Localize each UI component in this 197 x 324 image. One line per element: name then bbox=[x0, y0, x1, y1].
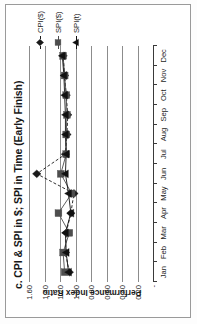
x-tick-mark bbox=[153, 202, 157, 203]
x-tick-mark bbox=[153, 222, 157, 223]
series-line bbox=[36, 56, 73, 272]
x-tick-label: Mar bbox=[159, 226, 168, 239]
triangle-marker-icon bbox=[71, 36, 81, 49]
scanned-page: c. CPI & SPI in $; SPI in Time (Early Fi… bbox=[0, 0, 197, 324]
x-tick-mark bbox=[153, 65, 157, 66]
y-tick-label: - bbox=[148, 285, 157, 309]
x-tick-mark bbox=[153, 261, 157, 262]
plot-series-layer bbox=[29, 46, 153, 282]
data-point-marker bbox=[72, 39, 78, 46]
legend-item[interactable]: SPI(t) bbox=[67, 15, 85, 49]
chart: c. CPI & SPI in $; SPI in Time (Early Fi… bbox=[9, 9, 189, 315]
x-tick-mark bbox=[153, 84, 157, 85]
y-tick-label: 1.60 bbox=[24, 285, 33, 309]
x-tick-label: Jan bbox=[159, 266, 168, 278]
x-tick-label: May bbox=[159, 186, 168, 200]
y-tick-label: 0.20 bbox=[133, 285, 142, 309]
y-tick-label: 1.20 bbox=[55, 285, 64, 309]
x-tick-label: Dec bbox=[159, 49, 168, 63]
y-tick-label: 0.60 bbox=[102, 285, 111, 309]
x-tick-mark bbox=[153, 183, 157, 184]
x-tick-mark bbox=[153, 281, 157, 282]
chart-legend: CPI($)SPI($)SPI(t) bbox=[31, 15, 85, 49]
diamond-marker-icon bbox=[35, 36, 45, 49]
legend-label: CPI($) bbox=[35, 11, 44, 33]
y-tick-label: 0.40 bbox=[117, 285, 126, 309]
chart-title: c. CPI & SPI in $; SPI in Time (Early Fi… bbox=[12, 89, 24, 289]
y-axis-tick-labels: 1.601.401.201.000.800.600.400.20- bbox=[29, 285, 153, 309]
data-point-marker bbox=[55, 210, 62, 217]
x-tick-label: Oct bbox=[159, 89, 168, 101]
x-tick-mark bbox=[153, 143, 157, 144]
data-point-marker bbox=[61, 229, 68, 237]
y-tick-label: 0.80 bbox=[86, 285, 95, 309]
y-tick-label: 1.40 bbox=[40, 285, 49, 309]
data-point-marker bbox=[36, 39, 43, 46]
x-axis-line bbox=[153, 46, 154, 282]
legend-label: SPI(t) bbox=[71, 14, 80, 33]
x-tick-label: Aug bbox=[159, 128, 168, 142]
x-tick-label: Jun bbox=[159, 168, 168, 180]
legend-item[interactable]: SPI($) bbox=[49, 15, 67, 49]
x-tick-mark bbox=[153, 242, 157, 243]
plot-area bbox=[29, 46, 153, 282]
data-point-marker bbox=[55, 40, 61, 46]
x-tick-mark bbox=[153, 104, 157, 105]
x-tick-mark bbox=[153, 124, 157, 125]
legend-item[interactable]: CPI($) bbox=[31, 15, 49, 49]
x-tick-mark bbox=[153, 163, 157, 164]
x-tick-mark bbox=[153, 45, 157, 46]
data-point-marker bbox=[64, 190, 71, 198]
y-tick-label: 1.00 bbox=[71, 285, 80, 309]
x-tick-label: Apr bbox=[159, 207, 168, 219]
data-point-marker bbox=[32, 170, 41, 178]
x-tick-label: Nov bbox=[159, 69, 168, 83]
x-tick-label: Jul bbox=[159, 149, 168, 159]
x-tick-label: Sep bbox=[159, 108, 168, 122]
rotated-chart-stage: c. CPI & SPI in $; SPI in Time (Early Fi… bbox=[9, 9, 189, 315]
square-marker-icon bbox=[53, 36, 63, 49]
x-tick-label: Feb bbox=[159, 246, 168, 259]
legend-label: SPI($) bbox=[53, 11, 62, 33]
